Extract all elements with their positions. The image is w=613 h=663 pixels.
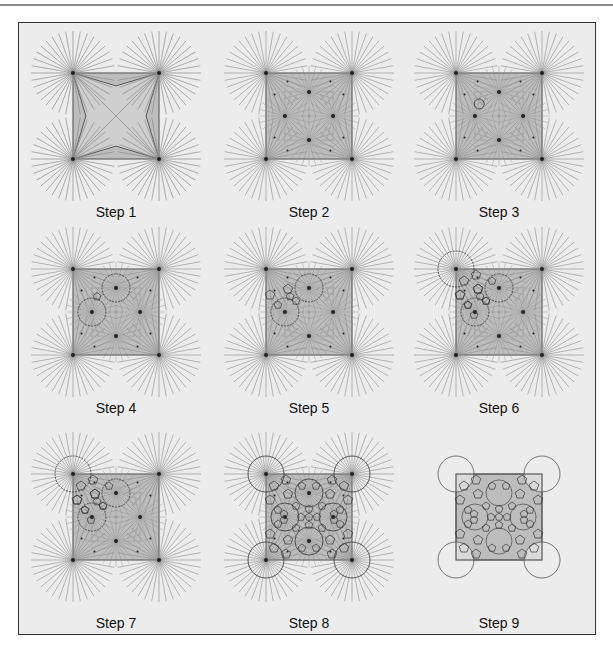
step-9-label: Step 9 <box>404 615 594 631</box>
step-5-label: Step 5 <box>214 400 404 416</box>
step-4-diagram <box>21 223 211 403</box>
step-8-label: Step 8 <box>214 615 404 631</box>
step-6-diagram <box>404 223 594 403</box>
panel-step-7: Step 7 <box>21 428 211 628</box>
top-rule <box>0 4 613 6</box>
panel-step-8: Step 8 <box>214 428 404 628</box>
panel-step-9: Step 9 <box>404 428 594 628</box>
step-7-diagram <box>21 428 211 608</box>
step-2-label: Step 2 <box>214 204 404 220</box>
step-6-label: Step 6 <box>404 400 594 416</box>
panel-step-2: Step 2 <box>214 27 404 227</box>
step-2-diagram <box>214 27 404 207</box>
panel-step-5: Step 5 <box>214 223 404 423</box>
panel-step-4: Step 4 <box>21 223 211 423</box>
step-9-diagram <box>404 428 594 608</box>
step-3-diagram <box>404 27 594 207</box>
step-8-diagram <box>214 428 404 608</box>
panel-step-3: Step 3 <box>404 27 594 227</box>
step-7-label: Step 7 <box>21 615 211 631</box>
panel-step-1: Step 1 <box>21 27 211 227</box>
figure-frame: Step 1 Step 2 Step 3 Step 4 Step 5 Step … <box>18 22 596 635</box>
step-5-diagram <box>214 223 404 403</box>
step-3-label: Step 3 <box>404 204 594 220</box>
step-1-diagram <box>21 27 211 207</box>
step-1-label: Step 1 <box>21 204 211 220</box>
panel-step-6: Step 6 <box>404 223 594 423</box>
step-4-label: Step 4 <box>21 400 211 416</box>
